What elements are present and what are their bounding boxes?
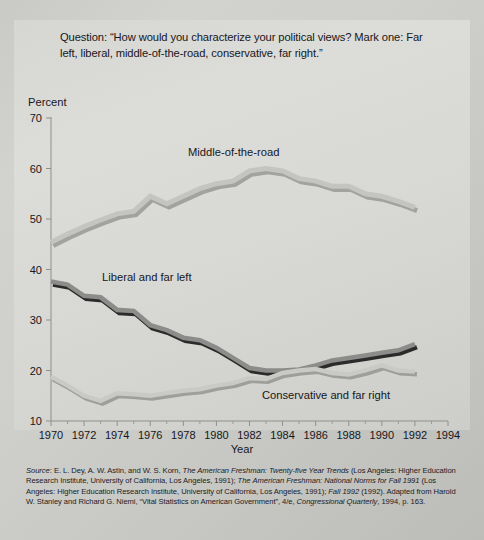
figure-page: Question: “How would you characterize yo… — [0, 0, 484, 540]
x-tick-label: 1984 — [270, 429, 294, 441]
x-tick-label: 1980 — [204, 429, 228, 441]
x-tick-label: 1978 — [171, 429, 195, 441]
x-tick-label: 1992 — [403, 429, 427, 441]
annotation-middle-of-the-road: Middle-of-the-road — [188, 146, 279, 158]
source-l4a: University of California, Los Angeles, 1… — [181, 487, 328, 496]
x-tick-label: 1974 — [105, 429, 129, 441]
y-tick-label: 70 — [30, 112, 42, 124]
series-middle-of-the-road — [51, 169, 417, 246]
y-tick-label: 20 — [30, 365, 42, 377]
line-chart-svg: 1020304050607019701972197419761978198019… — [0, 0, 484, 460]
y-tick-label: 30 — [30, 314, 42, 326]
x-tick-label: 1972 — [72, 429, 96, 441]
source-note: Source: E. L. Dey, A. W. Astin, and W. S… — [26, 466, 460, 508]
source-l1a: : E. L. Dey, A. W. Astin, and W. S. Korn… — [50, 466, 183, 475]
y-tick-label: 10 — [30, 415, 42, 427]
series-liberal-and-far-left — [51, 282, 417, 374]
x-tick-label: 1990 — [370, 429, 394, 441]
plot-area: 1020304050607019701972197419761978198019… — [0, 0, 484, 540]
source-l2i: The — [238, 476, 251, 485]
x-tick-label: 1988 — [337, 429, 361, 441]
annotation-conservative-and-far-right: Conservative and far right — [262, 389, 391, 401]
x-axis-title: Year — [0, 443, 484, 455]
source-label: Source — [26, 466, 50, 475]
source-l4i: Fall 1992 — [328, 487, 359, 496]
x-tick-label: 1970 — [39, 429, 63, 441]
annotation-liberal-and-far-left: Liberal and far left — [102, 271, 192, 283]
x-tick-label: 1982 — [237, 429, 261, 441]
y-tick-label: 60 — [30, 163, 42, 175]
x-tick-label: 1986 — [303, 429, 327, 441]
source-l5a: Richard G. Niemi, “Vital Statistics on A… — [78, 497, 296, 506]
source-l3i: American Freshman: National Norms for Fa… — [253, 476, 420, 485]
x-tick-label: 1994 — [436, 429, 460, 441]
x-tick-label: 1976 — [138, 429, 162, 441]
source-l6: p. 163. — [402, 497, 425, 506]
source-l1i: The American Freshman: Twenty-five Year … — [183, 466, 349, 475]
source-l5b: , 1994, — [377, 497, 400, 506]
y-tick-label: 50 — [30, 213, 42, 225]
source-l1b: (Los — [349, 466, 366, 475]
y-tick-label: 40 — [30, 264, 42, 276]
source-l5i: Congressional Quarterly — [297, 497, 378, 506]
